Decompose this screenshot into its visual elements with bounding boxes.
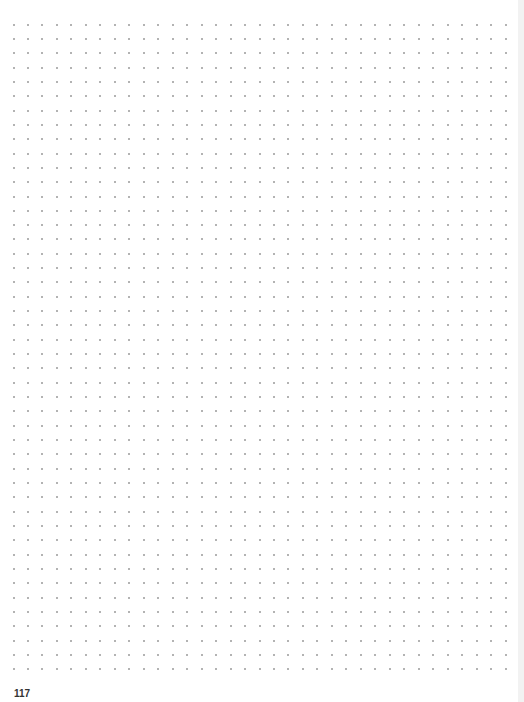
grid-dot [505, 511, 507, 513]
grid-dot [476, 496, 478, 498]
grid-dot [128, 439, 130, 441]
grid-dot [316, 539, 318, 541]
grid-dot [490, 568, 492, 570]
grid-dot [287, 181, 289, 183]
grid-dot [302, 611, 304, 613]
grid-dot [41, 367, 43, 369]
grid-dot [186, 582, 188, 584]
grid-dot [432, 511, 434, 513]
grid-dot [476, 482, 478, 484]
grid-dot [418, 224, 420, 226]
grid-dot [287, 453, 289, 455]
grid-dot [490, 468, 492, 470]
grid-dot [403, 24, 405, 26]
grid-dot [41, 396, 43, 398]
grid-dot [157, 396, 159, 398]
grid-dot [27, 668, 29, 670]
grid-dot [85, 453, 87, 455]
grid-dot [403, 568, 405, 570]
grid-dot [27, 167, 29, 169]
grid-dot [360, 396, 362, 398]
grid-dot [432, 24, 434, 26]
grid-dot [114, 410, 116, 412]
grid-dot [389, 110, 391, 112]
grid-dot [432, 281, 434, 283]
grid-dot [461, 582, 463, 584]
grid-dot [447, 339, 449, 341]
grid-dot [461, 410, 463, 412]
grid-dot [172, 525, 174, 527]
grid-dot [201, 353, 203, 355]
grid-dot [244, 24, 246, 26]
grid-dot [287, 468, 289, 470]
grid-dot [128, 238, 130, 240]
grid-dot [331, 525, 333, 527]
grid-dot [143, 525, 145, 527]
grid-dot [403, 611, 405, 613]
grid-dot [331, 410, 333, 412]
grid-dot [85, 124, 87, 126]
grid-dot [331, 425, 333, 427]
grid-dot [41, 554, 43, 556]
grid-dot [70, 539, 72, 541]
grid-dot [490, 353, 492, 355]
grid-dot [172, 640, 174, 642]
grid-dot [41, 210, 43, 212]
grid-dot [114, 253, 116, 255]
grid-dot [157, 253, 159, 255]
grid-dot [316, 81, 318, 83]
grid-dot [230, 496, 232, 498]
grid-dot [490, 496, 492, 498]
grid-dot [244, 324, 246, 326]
grid-dot [56, 568, 58, 570]
grid-dot [389, 367, 391, 369]
grid-dot [259, 625, 261, 627]
grid-dot [230, 253, 232, 255]
grid-dot [447, 310, 449, 312]
grid-dot [99, 453, 101, 455]
grid-dot [316, 597, 318, 599]
grid-dot [41, 625, 43, 627]
grid-dot [172, 153, 174, 155]
grid-dot [56, 539, 58, 541]
grid-dot [476, 110, 478, 112]
grid-dot [143, 396, 145, 398]
grid-dot [201, 324, 203, 326]
grid-dot [331, 324, 333, 326]
grid-dot [273, 210, 275, 212]
grid-dot [360, 382, 362, 384]
grid-dot [302, 196, 304, 198]
grid-dot [331, 310, 333, 312]
grid-dot [418, 210, 420, 212]
grid-dot [360, 568, 362, 570]
grid-dot [99, 640, 101, 642]
grid-dot [259, 453, 261, 455]
grid-dot [418, 453, 420, 455]
grid-dot [27, 52, 29, 54]
grid-dot [186, 468, 188, 470]
grid-dot [418, 167, 420, 169]
grid-dot [461, 24, 463, 26]
grid-dot [143, 625, 145, 627]
grid-dot [476, 52, 478, 54]
grid-dot [418, 367, 420, 369]
grid-dot [157, 482, 159, 484]
grid-dot [287, 611, 289, 613]
grid-dot [418, 67, 420, 69]
grid-dot [157, 95, 159, 97]
grid-dot [186, 539, 188, 541]
grid-dot [476, 439, 478, 441]
grid-dot [244, 181, 246, 183]
grid-dot [461, 568, 463, 570]
grid-dot [230, 81, 232, 83]
grid-dot [13, 453, 15, 455]
grid-dot [114, 210, 116, 212]
grid-dot [490, 367, 492, 369]
grid-dot [172, 267, 174, 269]
grid-dot [70, 482, 72, 484]
grid-dot [201, 668, 203, 670]
grid-dot [230, 124, 232, 126]
grid-dot [186, 353, 188, 355]
grid-dot [360, 210, 362, 212]
grid-dot [302, 353, 304, 355]
